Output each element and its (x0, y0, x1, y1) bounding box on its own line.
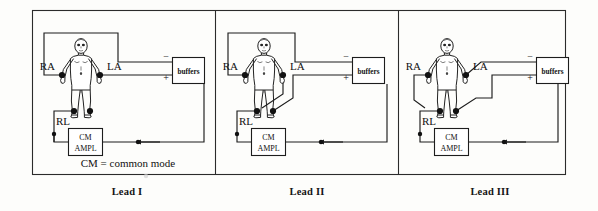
lead-3-common-mode-feedback (469, 84, 558, 142)
lead-2-electrode-ra[interactable] (242, 72, 248, 78)
caption-lead-2: Lead II (242, 186, 372, 197)
lead-3-ra-wire (414, 75, 428, 108)
lead-2-electrode-rl[interactable] (254, 108, 260, 114)
lead-1-label-rl: RL (56, 115, 70, 127)
lead-2-electrode-ll[interactable] (270, 108, 276, 114)
lead-2-minus-sign: − (343, 51, 349, 62)
panel-lead-2: buffers − + CM AMPL RA LA RL (223, 33, 387, 156)
caption-lead-3: Lead III (425, 186, 555, 197)
lead-1-node-feedback (136, 140, 140, 144)
lead-1-patient-figure (61, 39, 102, 118)
lead-3-node-rl (418, 132, 422, 136)
lead-2-cm-line2: AMPL (257, 144, 279, 153)
lead-1-buffers-box[interactable]: buffers (173, 58, 205, 84)
caption-lead-1: Lead I (62, 186, 192, 197)
lead-3-electrode-la[interactable] (463, 72, 469, 78)
lead-3-patient-figure (427, 39, 468, 118)
lead-3-ll-wire (456, 75, 536, 111)
lead-1-common-mode-feedback (103, 84, 204, 142)
lead-3-electrode-ll[interactable] (453, 108, 459, 114)
lead-1-common-mode-note: CM = common mode (81, 157, 176, 169)
lead-3-cm-line2: AMPL (440, 144, 462, 153)
lead-3-electrode-rl[interactable] (437, 108, 443, 114)
figure-outer-border (33, 11, 566, 175)
lead-3-cm-ampl-box[interactable]: CM AMPL (435, 129, 469, 156)
lead-1-electrode-rl[interactable] (71, 108, 77, 114)
lead-1-node-rl (52, 132, 56, 136)
lead-2-common-mode-feedback (286, 84, 387, 142)
panel-lead-3: buffers − + CM AMPL RA LA RL (406, 39, 569, 156)
lead-1-plus-sign: + (163, 72, 169, 83)
lead-1-label-la: LA (107, 60, 122, 72)
scan-speckle (144, 174, 148, 178)
lead-3-node-feedback (502, 140, 506, 144)
lead-2-cm-line1: CM (262, 133, 274, 142)
lead-3-label-la: LA (473, 60, 488, 72)
lead-1-minus-sign: − (163, 51, 169, 62)
lead-2-plus-sign: + (343, 72, 349, 83)
lead-2-label-la: LA (290, 60, 305, 72)
lead-1-label-ra: RA (40, 60, 55, 72)
panel-lead-1: buffers − + CM AMPL RA LA RL CM = common… (40, 33, 205, 169)
lead-2-patient-figure (244, 39, 285, 118)
lead-3-buffers-label: buffers (542, 68, 564, 76)
lead-1-cm-ampl-box[interactable]: CM AMPL (69, 129, 103, 156)
lead-1-electrode-la[interactable] (97, 72, 103, 78)
lead-2-ll-wire (262, 75, 352, 111)
lead-2-electrode-la[interactable] (280, 72, 286, 78)
lead-1-cm-line1: CM (79, 133, 91, 142)
lead-1-electrode-ll[interactable] (87, 108, 93, 114)
figure-canvas: buffers − + CM AMPL RA LA RL CM = common… (0, 0, 598, 211)
lead-3-plus-sign: + (527, 72, 533, 83)
lead-2-buffers-label: buffers (358, 68, 380, 76)
lead-2-label-rl: RL (239, 115, 253, 127)
lead-2-node-rl (235, 132, 239, 136)
lead-2-cm-ampl-box[interactable]: CM AMPL (252, 129, 286, 156)
lead-2-label-ra: RA (223, 60, 238, 72)
lead-3-electrode-ra[interactable] (425, 72, 431, 78)
lead-2-node-feedback (319, 140, 323, 144)
lead-3-label-rl: RL (422, 115, 436, 127)
lead-1-cm-line2: AMPL (74, 144, 96, 153)
lead-3-buffers-box[interactable]: buffers (537, 58, 569, 84)
lead-1-electrode-ra[interactable] (59, 72, 65, 78)
lead-3-label-ra: RA (406, 60, 421, 72)
lead-3-minus-sign: − (527, 51, 533, 62)
lead-2-buffers-box[interactable]: buffers (353, 58, 385, 84)
lead-1-buffers-label: buffers (178, 68, 200, 76)
lead-3-cm-line1: CM (445, 133, 457, 142)
ecg-lead-diagram: buffers − + CM AMPL RA LA RL CM = common… (0, 0, 598, 211)
